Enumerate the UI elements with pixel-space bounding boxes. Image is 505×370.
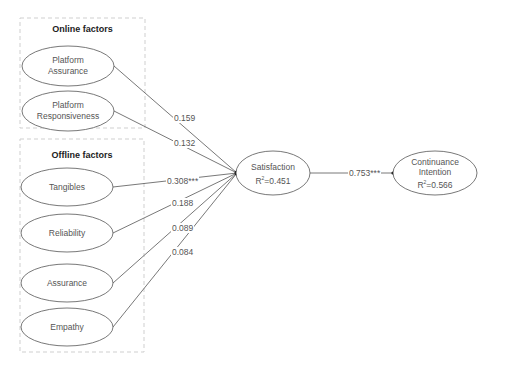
coef-reliability: 0.188 — [171, 198, 194, 208]
label-line: Platform — [22, 100, 114, 111]
r2-continuance: R2=0.566 — [393, 177, 477, 190]
label-satisfaction: Satisfaction R2=0.451 — [236, 162, 310, 187]
coef-platform-responsiveness: 0.132 — [173, 138, 196, 148]
coef-assurance: 0.089 — [171, 223, 194, 233]
label-line: Continuance — [393, 157, 477, 167]
coef-platform-assurance: 0.159 — [173, 113, 196, 123]
label-assurance: Assurance — [21, 278, 113, 289]
label-line: Responsiveness — [22, 111, 114, 122]
label-line: Platform — [22, 55, 114, 66]
label-continuance-intention: Continuance Intention R2=0.566 — [393, 157, 477, 190]
r2-satisfaction: R2=0.451 — [236, 173, 310, 187]
label-platform-responsiveness: Platform Responsiveness — [22, 100, 114, 122]
label-empathy: Empathy — [21, 322, 113, 333]
coef-satisfaction-continuance: 0.753*** — [348, 168, 381, 178]
label-line: Intention — [393, 167, 477, 177]
label-tangibles: Tangibles — [21, 182, 113, 193]
label-platform-assurance: Platform Assurance — [22, 55, 114, 77]
coef-tangibles: 0.308*** — [166, 176, 199, 186]
label-line: Assurance — [22, 66, 114, 77]
label-line: Satisfaction — [236, 162, 310, 173]
coef-empathy: 0.084 — [171, 247, 194, 257]
label-reliability: Reliability — [21, 228, 113, 239]
online-factors-title: Online factors — [20, 24, 145, 34]
offline-factors-title: Offline factors — [20, 150, 144, 160]
